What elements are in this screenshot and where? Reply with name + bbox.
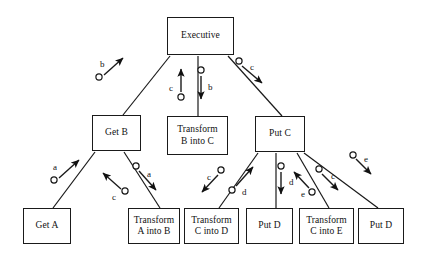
message-label-ann-e-up-to-put-c: e	[301, 190, 305, 199]
node-put-c[interactable]: Put C	[255, 116, 305, 152]
message-label-ann-d-up-to-put-c: d	[242, 188, 247, 197]
node-label-executive: Executive	[179, 30, 222, 42]
message-label-ann-b-down-to-transform: b	[208, 83, 213, 92]
message-token-circle-ann-c-up-to-executive	[178, 94, 184, 100]
node-label-put-d-left: Put D	[256, 220, 282, 232]
node-label-put-d-right: Put D	[368, 220, 394, 232]
message-arrow-ann-c-up-to-get-b	[103, 173, 121, 189]
node-label-transform-c-into-e: Transform C into E	[304, 215, 349, 238]
message-token-circle-ann-d-down-to-put-d	[278, 163, 284, 169]
message-token-circle-ann-b-down-to-transform	[198, 67, 204, 73]
message-token-circle-ann-d-up-to-put-c	[229, 187, 235, 193]
message-arrow-ann-b-up-to-executive	[104, 58, 123, 75]
node-transform-b-into-c[interactable]: Transform B into C	[167, 116, 228, 155]
message-token-circle-ann-e-down-to-put-d	[350, 152, 356, 158]
message-arrow-ann-a-up-to-get-b	[59, 160, 79, 178]
message-label-ann-c-down-to-put-c: c	[250, 63, 254, 72]
edge-executive-get-b	[123, 56, 170, 115]
edge-get-b-get-a	[53, 152, 95, 208]
edge-get-b-transform-a-into-b	[124, 152, 160, 208]
message-token-circle-ann-a-up-to-get-b	[51, 177, 57, 183]
message-label-ann-c-down-to-transform-cd: c	[207, 173, 211, 182]
message-label-ann-e-down-to-put-d: e	[364, 155, 368, 164]
node-label-get-a: Get A	[34, 220, 61, 232]
message-token-circle-ann-c-down-to-transform-ce	[316, 166, 322, 172]
message-label-ann-a-up-to-get-b: a	[53, 163, 57, 172]
node-transform-c-into-d[interactable]: Transform C into D	[184, 208, 239, 244]
message-token-circle-ann-c-up-to-get-b	[122, 188, 128, 194]
edge-executive-put-c	[228, 56, 282, 116]
node-transform-a-into-b[interactable]: Transform A into B	[128, 208, 180, 244]
message-token-circle-ann-e-up-to-put-c	[309, 189, 315, 195]
node-label-transform-a-into-b: Transform A into B	[132, 215, 177, 238]
node-label-transform-b-into-c: Transform B into C	[175, 124, 220, 147]
message-label-ann-b-up-to-executive: b	[100, 60, 105, 69]
message-arrow-ann-d-up-to-put-c	[236, 167, 253, 186]
message-token-circle-ann-c-down-to-transform-cd	[218, 167, 224, 173]
node-transform-c-into-e[interactable]: Transform C into E	[299, 208, 354, 244]
node-label-transform-c-into-d: Transform C into D	[189, 215, 234, 238]
node-get-b[interactable]: Get B	[92, 115, 141, 151]
message-label-ann-c-up-to-get-b: c	[112, 193, 116, 202]
message-token-circle-ann-a-down-to-transform	[133, 163, 139, 169]
node-put-d-right[interactable]: Put D	[358, 208, 404, 244]
message-label-ann-a-down-to-transform: a	[147, 170, 151, 179]
message-arrow-ann-e-up-to-put-c	[294, 172, 309, 188]
node-put-d-left[interactable]: Put D	[246, 208, 293, 244]
message-label-ann-d-down-to-put-d: d	[289, 178, 294, 187]
message-token-circle-ann-b-up-to-executive	[96, 74, 102, 80]
message-label-ann-c-down-to-transform-ce: c	[331, 172, 335, 181]
message-label-ann-c-up-to-executive: c	[169, 84, 173, 93]
diagram-canvas: ExecutiveGet BTransform B into CPut CGet…	[0, 0, 428, 263]
edge-put-c-transform-c-into-d	[219, 153, 258, 208]
node-label-get-b: Get B	[103, 127, 130, 139]
message-token-circle-ann-c-down-to-put-c	[236, 58, 242, 64]
node-label-put-c: Put C	[267, 128, 293, 140]
node-executive[interactable]: Executive	[167, 17, 234, 55]
node-get-a[interactable]: Get A	[23, 208, 71, 244]
